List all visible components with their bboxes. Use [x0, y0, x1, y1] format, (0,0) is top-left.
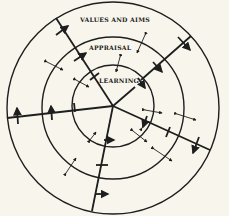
- tick-arrow-icon: [17, 108, 18, 124]
- ring-label-appraisal: APPRAISAL: [89, 44, 131, 51]
- double-arrow-icon: [177, 114, 196, 120]
- learning-diagram: [0, 0, 229, 216]
- spoke-upper-left: [56, 18, 113, 106]
- double-arrow-icon: [90, 132, 96, 140]
- spoke-down: [92, 106, 113, 211]
- double-arrow-icon: [47, 62, 63, 70]
- spoke-upper-right: [113, 87, 135, 106]
- tick-arrow-icon: [74, 103, 75, 112]
- tick-arrow-icon: [51, 106, 52, 120]
- ring-label-values: VALUES AND AIMS: [80, 16, 150, 23]
- double-arrow-icon: [66, 158, 76, 173]
- spoke-left: [7, 106, 113, 118]
- ring-label-learning: LEARNING: [99, 77, 139, 84]
